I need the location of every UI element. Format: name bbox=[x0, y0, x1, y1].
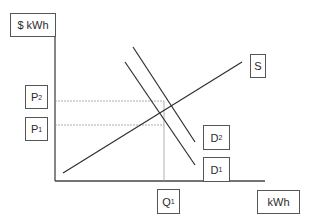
d2-label-base: D bbox=[211, 132, 219, 144]
d1-label-base: D bbox=[211, 164, 219, 176]
p2-label: P2 bbox=[25, 85, 48, 109]
y-axis-label: $ kWh bbox=[10, 13, 56, 37]
p2-label-base: P bbox=[31, 91, 38, 103]
x-axis-label: kWh bbox=[257, 190, 300, 214]
p1-label-base: P bbox=[31, 123, 38, 135]
supply-label: S bbox=[250, 54, 266, 78]
d2-label: D2 bbox=[203, 125, 230, 150]
p1-label-sub: 1 bbox=[38, 126, 42, 133]
q1-label: Q1 bbox=[157, 189, 180, 214]
demand-curve-1 bbox=[125, 62, 195, 165]
d1-label: D1 bbox=[203, 157, 230, 182]
p1-label: P1 bbox=[25, 117, 48, 141]
q1-label-sub: 1 bbox=[171, 198, 175, 205]
d2-label-sub: 2 bbox=[219, 134, 223, 141]
d1-label-sub: 1 bbox=[219, 166, 223, 173]
q1-label-base: Q bbox=[162, 196, 171, 208]
p2-label-sub: 2 bbox=[38, 94, 42, 101]
